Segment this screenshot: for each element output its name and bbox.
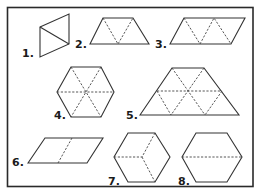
shape-2-label: 2. (75, 38, 87, 51)
shape-1: 1. (22, 14, 69, 60)
shape-3-label: 3. (155, 38, 167, 51)
shape-4: 4. (54, 67, 114, 122)
shape-8: 8. (178, 133, 242, 188)
shape-6: 6. (12, 138, 103, 169)
shape-3: 3. (155, 18, 245, 51)
shape-4-label: 4. (54, 109, 66, 122)
shape-1-label: 1. (22, 47, 34, 60)
shape-7: 7. (108, 133, 170, 188)
outer-border (8, 8, 254, 187)
shape-2: 2. (75, 18, 149, 51)
shape-decomposition-diagram: 1. 2. 3. 4. 5. 6. 7. (0, 0, 259, 193)
shape-5: 5. (126, 68, 239, 122)
shape-8-label: 8. (178, 175, 190, 188)
shape-6-label: 6. (12, 156, 24, 169)
shape-5-label: 5. (126, 109, 138, 122)
shape-7-label: 7. (108, 175, 120, 188)
